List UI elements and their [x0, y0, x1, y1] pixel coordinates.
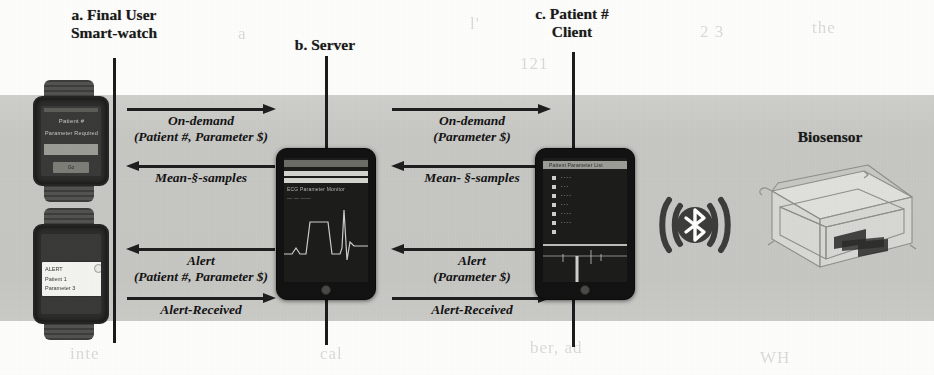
arrow-head-right: [263, 293, 276, 303]
message-line1: Alert-Received: [160, 302, 242, 317]
arrow-line: [403, 165, 551, 168]
client-list-item[interactable]: - - - -: [561, 211, 571, 216]
scan-artifact-text: l': [470, 14, 480, 34]
client-list-item[interactable]: - - - -: [561, 193, 571, 198]
server-row-1: [284, 171, 368, 176]
server-ecg-waveform-icon: [284, 202, 368, 272]
arrow-head-right: [538, 104, 551, 114]
message-label: Mean-§-samples: [127, 170, 275, 186]
server-row-2: [284, 178, 368, 183]
arrow-head-left: [126, 161, 139, 171]
title-server: b. Server: [250, 36, 400, 54]
client-list-item[interactable]: - - -: [561, 184, 568, 189]
watch-body: ALERT Patient 1 Parameter 3: [33, 224, 109, 324]
server-app-toolbar: [284, 160, 368, 167]
client-list-checkbox[interactable]: [552, 221, 556, 225]
scan-artifact-text: 121: [520, 54, 549, 74]
client-list-checkbox[interactable]: [552, 194, 556, 198]
client-list-checkbox[interactable]: [552, 230, 556, 234]
message-label: Alert (Patient #, Parameter $): [127, 253, 275, 284]
figure-page: l'2 3the121ahaptwo pntve pReandber, adin…: [0, 0, 934, 375]
server-screen-caption: ECG Parameter Monitor: [287, 186, 345, 192]
client-tablet-screen: Patient Parameter List - - - - - - - - -…: [543, 158, 627, 282]
client-list-item[interactable]: - - -: [561, 202, 568, 207]
alert-line1: ALERT: [45, 266, 63, 272]
notification-badge-icon: [94, 264, 101, 273]
arrow-line: [127, 108, 265, 111]
title-smartwatch-line1: a. Final User: [72, 6, 157, 23]
scan-artifact-text: a: [238, 24, 247, 44]
message-line2: (Patient #, Parameter $): [127, 129, 275, 145]
title-smartwatch: a. Final User Smart-watch: [26, 6, 202, 43]
client-tablet[interactable]: Patient Parameter List - - - - - - - - -…: [535, 148, 635, 300]
scan-artifact-text: cal: [320, 344, 343, 364]
message-line1: Alert: [458, 253, 486, 268]
alert-line2: Patient 1: [45, 276, 67, 282]
arrow-line: [403, 248, 551, 251]
arrow-line: [392, 108, 540, 111]
message-line2: (Parameter $): [392, 269, 552, 285]
scan-artifact-text: the: [812, 18, 836, 38]
client-screen-caption: Patient Parameter List: [549, 162, 603, 168]
bluetooth-wireless-icon: [655, 192, 735, 258]
lifeline-smartwatch: [113, 58, 116, 343]
lifeline-client: [572, 52, 575, 152]
smart-watch-alert[interactable]: ALERT Patient 1 Parameter 3: [33, 208, 105, 340]
lifeline-server: [325, 56, 328, 154]
title-client: c. Patient # Client: [492, 5, 652, 42]
server-tablet-screen: ECG Parameter Monitor — — ——: [284, 158, 368, 282]
title-client-line1: c. Patient #: [535, 5, 609, 22]
message-line1: On-demand: [439, 113, 505, 128]
watch-input-field[interactable]: [44, 144, 98, 155]
smart-watch-request[interactable]: Patient # Parameter Required Go: [33, 80, 105, 202]
lifeline-client-lower: [572, 299, 575, 347]
message-label: Alert-Received: [127, 302, 275, 318]
title-client-line2: Client: [552, 23, 592, 40]
message-label: Alert (Parameter $): [392, 253, 552, 284]
watch-request-line2: Parameter Required: [45, 130, 98, 136]
server-home-button-icon[interactable]: [321, 285, 331, 295]
message-line1: Alert-Received: [431, 302, 513, 317]
server-screen-sublabel: — — ——: [287, 195, 311, 201]
message-line1: On-demand: [168, 113, 234, 128]
arrow-line: [137, 165, 275, 168]
arrow-line: [392, 297, 540, 300]
lifeline-server-lower: [325, 297, 328, 345]
message-line1: Mean- §-samples: [424, 170, 520, 185]
arrow-head-right: [263, 104, 276, 114]
watch-alert-notification[interactable]: ALERT Patient 1 Parameter 3: [42, 262, 101, 296]
client-list-checkbox[interactable]: [552, 176, 556, 180]
client-signal-plot-icon: [543, 248, 627, 282]
arrow-head-left: [391, 161, 404, 171]
watch-body: Patient # Parameter Required Go: [33, 96, 109, 186]
client-list-checkbox[interactable]: [552, 203, 556, 207]
scan-artifact-text: inte: [70, 344, 100, 364]
message-label: On-demand (Patient #, Parameter $): [127, 113, 275, 144]
arrow-head-left: [126, 244, 139, 254]
client-divider: [543, 244, 627, 246]
watch-screen: Patient # Parameter Required Go: [41, 106, 101, 176]
arrow-line: [137, 248, 275, 251]
arrow-line: [127, 297, 265, 300]
watch-screen: ALERT Patient 1 Parameter 3: [41, 234, 101, 314]
message-label: On-demand (Parameter $): [392, 113, 552, 144]
client-list-item[interactable]: - - - -: [561, 175, 571, 180]
message-line1: Mean-§-samples: [155, 170, 247, 185]
scan-artifact-text: 2 3: [700, 22, 724, 42]
title-smartwatch-line2: Smart-watch: [71, 24, 157, 41]
title-server-line1: b. Server: [295, 36, 355, 53]
biosensor-device-illustration: [738, 163, 918, 281]
watch-go-button[interactable]: Go: [53, 162, 89, 173]
title-biosensor: Biosensor: [762, 128, 898, 146]
message-label: Alert-Received: [392, 302, 552, 318]
server-tablet[interactable]: ECG Parameter Monitor — — ——: [276, 148, 376, 300]
client-list-item[interactable]: - - - -: [561, 220, 571, 225]
message-line2: (Parameter $): [392, 129, 552, 145]
client-home-button-icon[interactable]: [580, 285, 590, 295]
message-line2: (Patient #, Parameter $): [127, 269, 275, 285]
biosensor-label: Biosensor: [798, 128, 863, 145]
client-list-checkbox[interactable]: [552, 185, 556, 189]
watch-status-bar: [44, 108, 98, 112]
client-list-checkbox[interactable]: [552, 212, 556, 216]
scan-artifact-text: WH: [760, 348, 790, 368]
